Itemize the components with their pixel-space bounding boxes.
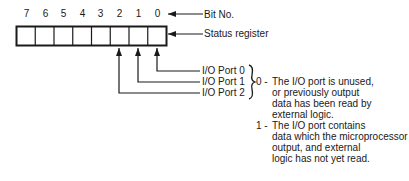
bit-number-3: 3 (91, 8, 110, 19)
meaning-zero-line-3: data has been read by (272, 98, 372, 109)
status-register-label: Status register (204, 28, 268, 39)
bit-number-4: 4 (73, 8, 92, 19)
meaning-zero-line-2: or previously output (272, 87, 359, 98)
io-port-1-label: I/O Port 1 (202, 76, 245, 87)
io-port-0-label: I/O Port 0 (202, 65, 245, 76)
meaning-one-line-1: The I/O port contains (272, 120, 365, 131)
meaning-one-line-2: data which the microprocessor (272, 131, 408, 142)
bit-number-2: 2 (110, 8, 129, 19)
bit-number-7: 7 (17, 8, 36, 19)
meaning-zero-line-4: external logic. (272, 109, 334, 120)
meaning-one-line-3: output, and external (272, 142, 360, 153)
bit-number-5: 5 (54, 8, 73, 19)
port0-arrow (157, 48, 200, 71)
bit-number-1: 1 (129, 8, 148, 19)
meaning-zero-line-1: The I/O port is unused, (272, 76, 374, 87)
meaning-zero-key: 0 - (256, 76, 268, 87)
bit-number-6: 6 (36, 8, 55, 19)
io-port-2-label: I/O Port 2 (202, 87, 245, 98)
port1-arrow (138, 48, 200, 82)
meaning-one-key: 1 - (256, 120, 268, 131)
meaning-one-line-4: logic has not yet read. (272, 153, 370, 164)
bit-number-0: 0 (148, 8, 167, 19)
brace (249, 65, 255, 99)
bit-no-label: Bit No. (204, 9, 234, 20)
